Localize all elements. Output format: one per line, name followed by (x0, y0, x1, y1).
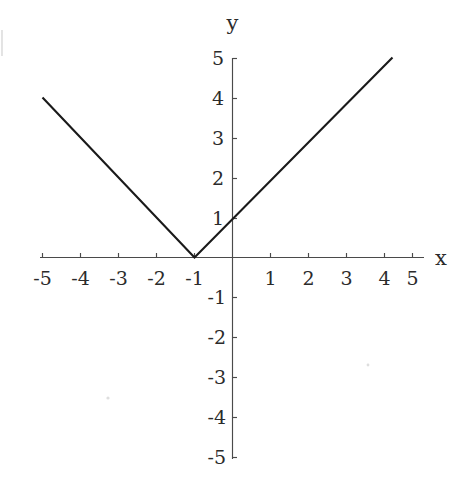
x-tick-label-minus4: -4 (71, 267, 90, 289)
x-tick-label-4: 4 (378, 267, 390, 289)
x-tick-label-1: 1 (264, 267, 276, 289)
y-tick-label-5: 5 (212, 47, 224, 69)
y-tick-label-2: 2 (212, 167, 224, 189)
coordinate-plane-svg: -5 -4 -3 -2 -1 1 2 3 4 5 5 4 3 2 1 -1 -2… (0, 0, 473, 483)
graph-figure: -5 -4 -3 -2 -1 1 2 3 4 5 5 4 3 2 1 -1 -2… (0, 0, 473, 483)
y-axis-label: y (226, 11, 239, 35)
x-tick-label-2: 2 (302, 267, 314, 289)
scan-speck (367, 364, 370, 367)
y-tick-label-minus4: -4 (207, 406, 226, 428)
y-tick-label-minus1: -1 (207, 286, 226, 308)
x-tick-label-3: 3 (340, 267, 352, 289)
x-tick-label-minus3: -3 (109, 267, 128, 289)
y-tick-label-1: 1 (212, 207, 224, 229)
x-tick-label-minus1: -1 (185, 267, 204, 289)
y-tick-label-4: 4 (212, 87, 224, 109)
x-tick-label-minus2: -2 (147, 267, 166, 289)
y-tick-label-3: 3 (212, 127, 224, 149)
y-tick-label-minus5: -5 (207, 446, 226, 468)
y-tick-label-minus3: -3 (207, 366, 226, 388)
x-tick-label-5: 5 (406, 267, 418, 289)
x-tick-label-minus5: -5 (33, 267, 52, 289)
y-tick-label-minus2: -2 (207, 326, 226, 348)
scan-speck (106, 396, 109, 399)
x-axis-label: x (435, 246, 447, 270)
